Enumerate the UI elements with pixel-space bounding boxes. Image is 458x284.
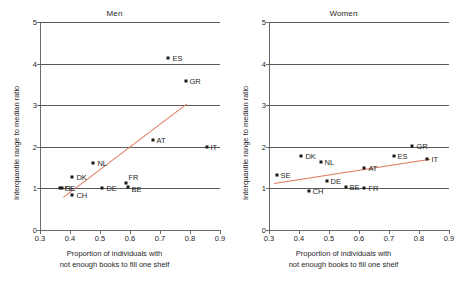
data-point-label: IT [431, 156, 438, 164]
gridline-y-3 [269, 105, 449, 106]
x-axis-title-line1: Proportion of individuals with [0, 248, 229, 259]
y-tick-mark [266, 64, 269, 65]
y-tick-label-3: 3 [33, 101, 37, 110]
data-point-label: BE [132, 186, 142, 194]
data-point[interactable] [101, 186, 104, 189]
data-point[interactable] [126, 186, 129, 189]
x-tick-label-0.5: 0.5 [95, 234, 105, 243]
x-tick-label-0.7: 0.7 [384, 234, 394, 243]
data-point[interactable] [363, 186, 366, 189]
y-tick-label-5: 5 [33, 18, 37, 27]
y-tick-mark [266, 188, 269, 189]
x-tick-label-0.6: 0.6 [354, 234, 364, 243]
data-point-label: NL [325, 159, 335, 167]
plot-area-men: 0123450.30.40.50.60.70.80.9ESGRATITNLDKF… [40, 22, 220, 230]
data-point[interactable] [411, 145, 414, 148]
data-point[interactable] [275, 174, 278, 177]
y-tick-mark [266, 105, 269, 106]
data-point-label: GR [416, 143, 427, 151]
y-tick-label-1: 1 [262, 184, 266, 193]
data-point[interactable] [392, 154, 395, 157]
data-point[interactable] [205, 145, 208, 148]
data-point-label: SE [281, 172, 291, 180]
x-tick-label-0.8: 0.8 [414, 234, 424, 243]
data-point[interactable] [325, 180, 328, 183]
y-tick-mark [37, 147, 40, 148]
data-point[interactable] [363, 167, 366, 170]
data-point[interactable] [426, 158, 429, 161]
x-axis-title-men: Proportion of individuals with not enoug… [0, 248, 229, 270]
y-tick-mark [37, 64, 40, 65]
x-tick-label-0.5: 0.5 [324, 234, 334, 243]
y-tick-mark [37, 188, 40, 189]
x-axis-title-women: Proportion of individuals with not enoug… [229, 248, 458, 270]
data-point[interactable] [166, 57, 169, 60]
data-point[interactable] [71, 194, 74, 197]
x-tick-label-0.4: 0.4 [65, 234, 75, 243]
x-axis-title-line2: not enough books to fill one shelf [0, 259, 229, 270]
x-tick-label-0.6: 0.6 [125, 234, 135, 243]
y-tick-label-2: 2 [33, 142, 37, 151]
data-point-label: AT [368, 165, 377, 173]
data-point-label: AT [157, 137, 166, 145]
x-tick-label-0.8: 0.8 [185, 234, 195, 243]
data-point-label: IT [211, 144, 218, 152]
scatter-figure: Men 0123450.30.40.50.60.70.80.9ESGRATITN… [0, 0, 458, 284]
data-point-label: FR [368, 185, 378, 193]
data-point[interactable] [300, 154, 303, 157]
gridline-y-5 [40, 22, 220, 23]
data-point[interactable] [92, 161, 95, 164]
y-tick-mark [37, 105, 40, 106]
y-tick-label-2: 2 [262, 142, 266, 151]
data-point-label: DK [305, 153, 315, 161]
y-axis-men [40, 22, 41, 230]
x-tick-label-0.3: 0.3 [264, 234, 274, 243]
y-axis-title-women: Interquantile range to median ratio [241, 86, 250, 200]
data-point[interactable] [151, 138, 154, 141]
plot-area-women: 0123450.30.40.50.60.70.80.9GRESITDKNLATS… [269, 22, 449, 230]
data-point-label: CH [76, 192, 87, 200]
data-point-label: FR [128, 174, 138, 182]
gridline-y-5 [269, 22, 449, 23]
x-axis-title-line1: Proportion of individuals with [229, 248, 458, 259]
data-point-label: CH [313, 188, 324, 196]
data-point-label: ES [398, 153, 408, 161]
y-axis-title-men: Interquantile range to median ratio [12, 86, 21, 200]
panel-men: Men 0123450.30.40.50.60.70.80.9ESGRATITN… [0, 0, 229, 284]
panel-women: Women 0123450.30.40.50.60.70.80.9GRESITD… [229, 0, 458, 284]
data-point[interactable] [125, 182, 128, 185]
y-tick-mark [37, 22, 40, 23]
y-tick-label-5: 5 [262, 18, 266, 27]
data-point-label: BE [350, 184, 360, 192]
x-tick-label-0.4: 0.4 [294, 234, 304, 243]
data-point[interactable] [307, 190, 310, 193]
x-tick-label-0.9: 0.9 [215, 234, 225, 243]
data-point-label: FI [64, 185, 71, 193]
y-tick-mark [266, 22, 269, 23]
data-point-label: DE [331, 178, 341, 186]
data-point-label: NL [97, 160, 107, 168]
x-axis-title-line2: not enough books to fill one shelf [229, 259, 458, 270]
data-point[interactable] [344, 186, 347, 189]
x-tick-label-0.9: 0.9 [444, 234, 454, 243]
data-point-label: ES [173, 55, 183, 63]
y-tick-label-1: 1 [33, 184, 37, 193]
data-point-label: DK [76, 174, 86, 182]
y-tick-label-3: 3 [262, 101, 266, 110]
y-tick-label-4: 4 [262, 59, 266, 68]
data-point[interactable] [71, 175, 74, 178]
data-point-label: DE [106, 185, 116, 193]
gridline-y-3 [40, 105, 220, 106]
data-point-label: GR [190, 78, 201, 86]
gridline-y-4 [40, 64, 220, 65]
y-axis-women [269, 22, 270, 230]
x-tick-label-0.7: 0.7 [155, 234, 165, 243]
trendline-1 [274, 158, 430, 183]
y-tick-label-4: 4 [33, 59, 37, 68]
gridline-y-4 [269, 64, 449, 65]
data-point[interactable] [59, 187, 62, 190]
data-point[interactable] [319, 161, 322, 164]
x-tick-label-0.3: 0.3 [35, 234, 45, 243]
data-point[interactable] [184, 80, 187, 83]
y-tick-mark [266, 147, 269, 148]
